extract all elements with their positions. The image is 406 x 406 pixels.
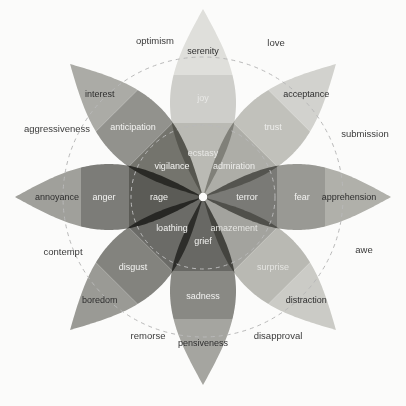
dyad-awe: awe: [355, 244, 372, 255]
emotion-label-amazement: amazement: [211, 223, 259, 233]
emotion-label-annoyance: annoyance: [35, 192, 79, 202]
emotion-label-ecstasy: ecstasy: [188, 148, 219, 158]
emotion-label-boredom: boredom: [82, 295, 118, 305]
emotion-label-admiration: admiration: [213, 161, 255, 171]
emotion-label-pensiveness: pensiveness: [178, 338, 229, 348]
emotion-label-surprise: surprise: [257, 262, 289, 272]
emotion-label-joy: joy: [196, 93, 209, 103]
dyad-disapproval: disapproval: [254, 330, 303, 341]
emotion-label-anger: anger: [92, 192, 115, 202]
dyad-submission: submission: [341, 128, 389, 139]
emotion-label-interest: interest: [85, 89, 115, 99]
emotion-label-disgust: disgust: [119, 262, 148, 272]
emotion-label-acceptance: acceptance: [283, 89, 329, 99]
emotion-label-terror: terror: [236, 192, 258, 202]
emotion-label-trust: trust: [264, 122, 282, 132]
emotion-label-grief: grief: [194, 236, 212, 246]
dyad-love: love: [267, 37, 284, 48]
emotion-label-anticipation: anticipation: [110, 122, 156, 132]
emotion-label-rage: rage: [150, 192, 168, 202]
emotion-label-sadness: sadness: [186, 291, 220, 301]
dyad-optimism: optimism: [136, 35, 174, 46]
wheel-svg: ecstasyjoyserenityadmirationtrustaccepta…: [0, 0, 406, 406]
emotion-label-fear: fear: [294, 192, 310, 202]
emotion-label-loathing: loathing: [156, 223, 188, 233]
emotion-label-distraction: distraction: [286, 295, 327, 305]
emotion-label-serenity: serenity: [187, 46, 219, 56]
wheel-of-emotions-figure: ecstasyjoyserenityadmirationtrustaccepta…: [0, 0, 406, 406]
dyad-contempt: contempt: [43, 246, 82, 257]
emotion-label-apprehension: apprehension: [322, 192, 377, 202]
emotion-label-vigilance: vigilance: [154, 161, 189, 171]
dyad-aggressiveness: aggressiveness: [24, 123, 90, 134]
dyad-remorse: remorse: [131, 330, 166, 341]
